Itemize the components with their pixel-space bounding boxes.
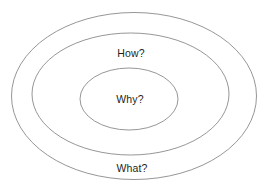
diagram-canvas: How? Why? What? [0,0,271,192]
ring-label-what: What? [116,163,147,174]
ring-label-how: How? [117,48,144,59]
ring-label-why: Why? [116,94,143,105]
